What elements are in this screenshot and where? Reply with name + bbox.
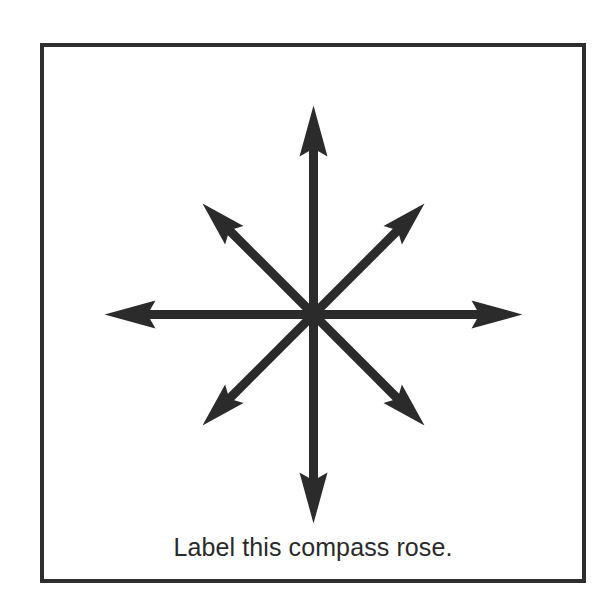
- compass-rose: [0, 0, 607, 607]
- instruction-caption: Label this compass rose.: [40, 533, 586, 562]
